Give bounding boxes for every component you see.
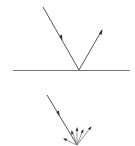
scattered-ray-5 (77, 127, 91, 145)
diffuse-incident-ray (47, 95, 77, 145)
specular-reflection (13, 7, 130, 71)
diffuse-reflection (47, 95, 92, 145)
scattered-arrow-icon-2 (71, 130, 74, 135)
reflected-ray (79, 30, 102, 70)
scattered-arrow-icon-4 (81, 129, 84, 133)
scattered-arrow-icon-1 (63, 139, 67, 142)
scattered-arrow-icon-3 (76, 127, 79, 131)
reflection-diagram (0, 0, 135, 146)
